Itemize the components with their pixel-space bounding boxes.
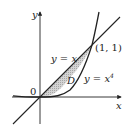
y-axis-label: y bbox=[31, 9, 38, 20]
origin-label: 0 bbox=[30, 86, 36, 97]
x-axis-label: x bbox=[116, 100, 122, 111]
region-label: D bbox=[66, 75, 75, 86]
region-diagram: y x 0 (1, 1) y = x D y = x4 bbox=[0, 0, 131, 132]
intersection-label: (1, 1) bbox=[95, 42, 122, 53]
line-label: y = x bbox=[50, 53, 77, 64]
line-y-equals-x bbox=[13, 17, 120, 124]
quartic-label: y = x4 bbox=[83, 72, 114, 84]
